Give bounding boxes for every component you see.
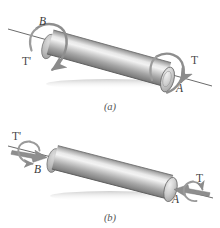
rotation-arrow-b-back-a [30,29,36,51]
caption-b: (b) [104,212,117,224]
label-t-a: T [191,54,198,66]
figure-canvas: B T' T A (a) [0,0,220,228]
label-t-b: T [196,172,203,184]
panel-a: B T' T A (a) [8,15,212,113]
label-b-b: B [34,163,41,175]
label-b-a: B [39,15,46,27]
label-t-prime-a: T' [22,55,31,67]
panel-b: T' B T A (b) [8,130,213,224]
caption-a: (a) [104,101,117,113]
block-arrow-right-b [174,185,210,197]
torsion-figure: B T' T A (a) [0,0,220,228]
rotation-loop-left-top-b [30,142,40,151]
label-a-b: A [171,193,180,205]
cylinder-barrel-b [52,146,173,199]
label-a-a: A [175,82,184,94]
block-arrow-left-b [11,150,47,162]
label-t-prime-b: T' [12,130,21,142]
